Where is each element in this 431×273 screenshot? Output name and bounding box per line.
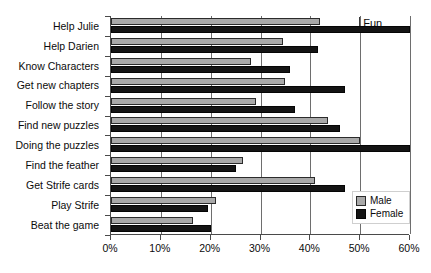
- bar-female: [111, 125, 340, 132]
- bar-group: [111, 135, 409, 155]
- y-axis-label: Doing the puzzles: [0, 135, 105, 155]
- legend-label: Male: [370, 195, 392, 207]
- bar-group: [111, 36, 409, 56]
- bar-female: [111, 26, 410, 33]
- x-axis-tick-label: 50%: [349, 241, 370, 255]
- y-axis-label: Help Julie: [0, 16, 105, 36]
- bar-female: [111, 46, 318, 53]
- legend-item: Male: [356, 195, 406, 207]
- legend-item: Female: [356, 208, 406, 220]
- x-axis-tick: [210, 235, 211, 240]
- x-axis-tick: [160, 235, 161, 240]
- x-axis-tick: [260, 235, 261, 240]
- legend-swatch-male: [356, 196, 366, 206]
- x-axis-tick: [359, 235, 360, 240]
- bar-male: [111, 78, 285, 85]
- bar-group: [111, 155, 409, 175]
- y-axis-label: Play Strife: [0, 195, 105, 215]
- x-axis-tick-labels: 0%10%20%30%40%50%60%: [110, 241, 409, 257]
- bar-female: [111, 106, 295, 113]
- y-axis-label: Find new puzzles: [0, 116, 105, 136]
- bar-male: [111, 18, 320, 25]
- y-axis-label: Beat the game: [0, 215, 105, 235]
- bar-female: [111, 145, 410, 152]
- x-axis-tick: [309, 235, 310, 240]
- bar-male: [111, 197, 216, 204]
- legend-label: Female: [370, 208, 403, 220]
- x-axis-tick-label: 30%: [249, 241, 270, 255]
- bar-group: [111, 75, 409, 95]
- y-axis-label: Get Strife cards: [0, 175, 105, 195]
- chart-legend: MaleFemale: [352, 191, 410, 224]
- bar-male: [111, 58, 251, 65]
- bar-female: [111, 165, 236, 172]
- bar-male: [111, 38, 283, 45]
- y-axis-label: Know Characters: [0, 56, 105, 76]
- bar-male: [111, 137, 360, 144]
- bar-male: [111, 157, 243, 164]
- bar-female: [111, 205, 208, 212]
- bar-group: [111, 115, 409, 135]
- y-axis-label: Help Darien: [0, 36, 105, 56]
- legend-swatch-female: [356, 209, 366, 219]
- bar-male: [111, 177, 315, 184]
- y-axis-label: Get new chapters: [0, 76, 105, 96]
- bar-group: [111, 16, 409, 36]
- y-axis-label: Follow the story: [0, 96, 105, 116]
- bar-group: [111, 95, 409, 115]
- bar-female: [111, 66, 290, 73]
- x-axis-tick: [110, 235, 111, 240]
- bar-male: [111, 98, 256, 105]
- bar-female: [111, 86, 345, 93]
- bar-female: [111, 225, 211, 232]
- x-axis-tick-label: 60%: [398, 241, 419, 255]
- x-axis-tick-label: 0%: [102, 241, 117, 255]
- x-axis-tick-label: 20%: [199, 241, 220, 255]
- bar-male: [111, 217, 193, 224]
- x-gridline: [410, 16, 411, 234]
- x-axis-tick: [409, 235, 410, 240]
- x-axis-tick-label: 10%: [149, 241, 170, 255]
- x-axis-tick-label: 40%: [299, 241, 320, 255]
- bar-group: [111, 56, 409, 76]
- bar-female: [111, 185, 345, 192]
- y-axis-category-labels: Help JulieHelp DarienKnow CharactersGet …: [0, 16, 105, 235]
- bar-male: [111, 117, 328, 124]
- bar-chart: Help JulieHelp DarienKnow CharactersGet …: [0, 0, 431, 273]
- y-axis-label: Find the feather: [0, 155, 105, 175]
